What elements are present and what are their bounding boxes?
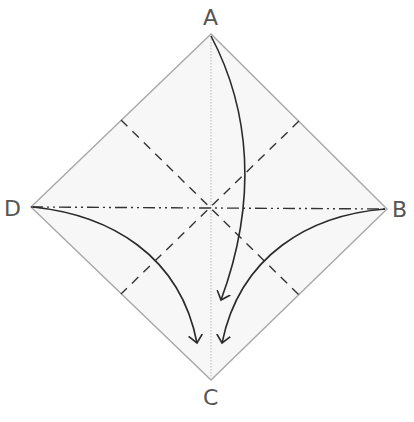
vertex-label-a: A — [203, 5, 218, 30]
vertex-label-b: B — [392, 197, 407, 222]
paper-square — [31, 34, 387, 380]
fold-diagram: A B C D — [0, 0, 414, 422]
vertex-label-c: C — [203, 385, 218, 410]
vertex-label-d: D — [4, 196, 21, 221]
